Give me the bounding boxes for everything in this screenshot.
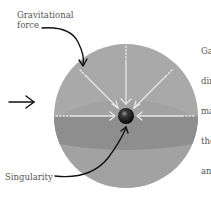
side-text: Ga dir ma the an [201,26,211,186]
singularity-label: Singularity [5,172,53,182]
side-text-line: dir [201,76,211,86]
side-text-line: ma [201,106,211,116]
side-text-line: an [201,166,211,176]
singularity-point [118,108,134,124]
side-text-line: the [201,136,211,146]
gravitational-force-label: Gravitational force [17,10,73,30]
curved-arrow-icon [42,28,83,65]
side-text-line: Ga [201,46,211,56]
arrow-right-icon [9,96,34,108]
